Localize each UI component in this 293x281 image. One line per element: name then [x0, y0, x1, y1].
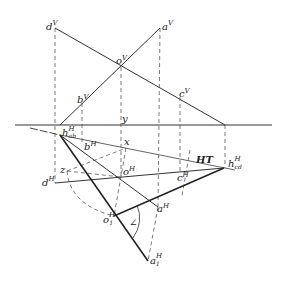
label-x: x [124, 136, 130, 147]
label-cH: cH [177, 171, 190, 183]
projectors [55, 28, 225, 261]
label-oH: oH [123, 165, 136, 177]
label-oV: oV [116, 54, 128, 66]
label-y: y [121, 113, 128, 124]
line-habH-aH [60, 135, 158, 207]
label-bV: bV [77, 93, 89, 105]
trace-ht-left [30, 128, 60, 135]
label-cV: cV [179, 87, 191, 99]
label-habH: hHab [62, 125, 76, 139]
angle-label: ∠ [129, 217, 137, 228]
label-HT: HT [195, 154, 214, 165]
label-bH: bH [84, 140, 97, 152]
line-dV-cV [55, 28, 225, 125]
line-habH-aV [60, 28, 160, 125]
label-o1H: oH1 [103, 211, 116, 226]
label-dV: dV [46, 19, 58, 32]
label-hcdH: hHcd [228, 155, 242, 170]
label-aV: aV [162, 19, 174, 32]
line-dH-hcdH [55, 168, 224, 183]
label-dH: dH [42, 175, 55, 188]
label-a1H: aH1 [150, 252, 163, 267]
label-z: z [59, 164, 66, 175]
projection-diagram: ∠ dV aV oV bV cV y hHab bH x oH cH HT hH… [0, 0, 293, 281]
line-habH-a1H [60, 135, 148, 261]
label-aH: aH [157, 202, 170, 214]
